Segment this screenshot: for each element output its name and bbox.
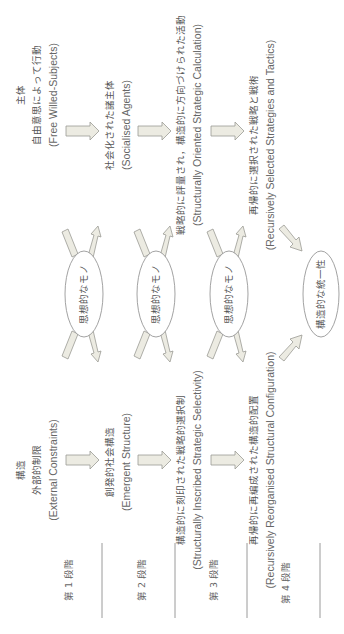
agency-arrows bbox=[66, 122, 244, 140]
structure-item-2-jp: 創発的社会構造 bbox=[104, 427, 115, 497]
ideational-node-1-label: 思想的なモノ bbox=[78, 264, 89, 324]
structure-arrows bbox=[66, 451, 244, 469]
arrow-right-icon bbox=[138, 122, 171, 140]
agency-item-4-en: (Recursively Selected Strategies and Tac… bbox=[264, 40, 276, 250]
arrow-right-icon bbox=[211, 451, 244, 469]
ideational-node-1: 思想的なモノ bbox=[62, 226, 103, 362]
ideational-node-2: 思想的なモノ bbox=[134, 226, 175, 362]
agency-item-4-jp: 再帰的に選択された戦略と戦術 bbox=[248, 75, 259, 215]
structure-item-1-en: (External Constraints) bbox=[47, 419, 59, 521]
structure-item-2-en: (Emergent Structure) bbox=[120, 413, 132, 511]
final-node: 構造的な統一性 bbox=[279, 225, 339, 361]
agency-item-2-en: (Socialised Agents) bbox=[120, 80, 132, 170]
structure-item-3-en: (Structurally Inscribed Strategic Select… bbox=[191, 370, 203, 570]
agency-item-1-jp: 自由意思によって行動 bbox=[31, 45, 42, 145]
strategic-relational-diagram: 主体 自由意思によって行動 (Free Willed-Subjects) 社会化… bbox=[0, 0, 344, 634]
structure-item-1-jp: 外部的制限 bbox=[31, 445, 42, 495]
final-node-label: 構造的な統一性 bbox=[315, 259, 326, 329]
arrow-right-icon bbox=[66, 451, 99, 469]
agency-item-1-en: (Free Willed-Subjects) bbox=[47, 43, 59, 147]
ideational-node-3-label: 思想的なモノ bbox=[223, 264, 234, 324]
structure-item-4-jp: 再帰的に再編成された構造的配置 bbox=[248, 395, 259, 545]
stage-label-1: 第 1 段階 bbox=[63, 559, 74, 601]
stage-label-3: 第 3 段階 bbox=[208, 559, 219, 601]
structure-item-3-jp: 構造的に刻印された戦略的選択制 bbox=[175, 395, 186, 545]
stage-label-4: 第 4 段階 bbox=[280, 562, 291, 604]
agency-heading: 主体 bbox=[15, 85, 26, 105]
structure-heading: 構造 bbox=[15, 460, 26, 480]
agency-item-3-jp: 戦略的に評量され，構造的に方向づけられた活動 bbox=[175, 15, 186, 235]
structure-item-4-en: (Recursively Reorganised Structural Conf… bbox=[264, 352, 276, 589]
arrow-right-icon bbox=[138, 451, 171, 469]
ideational-node-2-label: 思想的なモノ bbox=[150, 264, 161, 324]
stage-label-2: 第 2 段階 bbox=[136, 559, 147, 601]
agency-item-3-en: (Structurally Oriented Strategic Calcula… bbox=[191, 24, 203, 226]
agency-item-2-jp: 社会化された諸主体 bbox=[104, 80, 115, 170]
ideational-node-3: 思想的なモノ bbox=[207, 226, 248, 362]
structure-column: 構造 外部的制限 (External Constraints) 創発的社会構造 … bbox=[15, 352, 276, 589]
arrow-right-icon bbox=[66, 122, 99, 140]
arrow-right-icon bbox=[211, 122, 244, 140]
